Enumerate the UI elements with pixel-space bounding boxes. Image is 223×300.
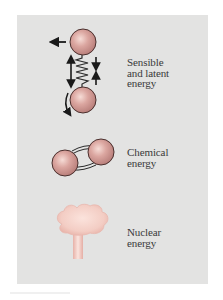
atom-icon [88,139,114,165]
label-line: Sensible [127,57,169,68]
label-line: energy [127,238,161,249]
label-line: energy [127,158,168,169]
rotation-arrow-icon [66,93,69,113]
cloud-stem-icon [73,232,83,259]
label-line: Chemical [127,147,168,158]
caption-remnant [10,292,70,294]
figure-illustrations [0,0,223,300]
vibrating-molecule-icon [54,29,96,113]
atom-icon [70,29,96,55]
label-chemical-energy: Chemical energy [127,147,168,168]
spring-icon [76,55,88,87]
cloud-cap-icon [57,204,108,235]
label-line: energy [127,78,169,89]
bonded-atoms-icon [52,139,114,176]
atom-icon [70,87,96,113]
label-nuclear-energy: Nuclear energy [127,227,161,248]
atom-icon [52,150,78,176]
mushroom-cloud-icon [57,204,108,259]
label-sensible-latent-energy: Sensible and latent energy [127,57,169,89]
label-line: Nuclear [127,227,161,238]
